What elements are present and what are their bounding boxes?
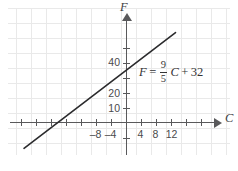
fraction-denominator: 5 [160,74,167,85]
equation-constant: 32 [191,65,204,80]
equation-variable: C [170,65,178,80]
fraction-nine-fifths: 9 5 [160,60,167,84]
equation-annotation: F = 9 5 C + 32 [139,60,203,84]
graph-figure: –8 –4 4 8 12 10 20 40 F C F = 9 5 C + 32 [0,0,238,171]
equation-equals: = [149,65,156,80]
line-segment [24,33,176,149]
plotted-line [0,0,238,171]
fraction-numerator: 9 [160,60,167,71]
equation-lhs: F [139,65,147,80]
equation-plus: + [181,65,188,80]
